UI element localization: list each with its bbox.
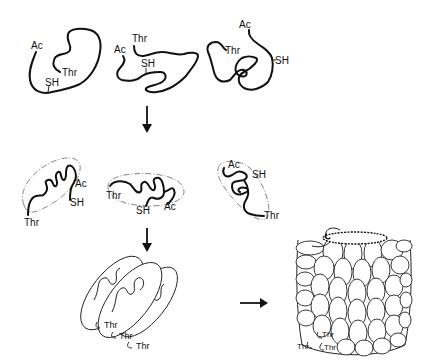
folded-monomer-1: Ac SH Thr bbox=[22, 158, 86, 228]
label-ac: Ac bbox=[239, 19, 251, 30]
label-thr: Thr bbox=[132, 33, 148, 44]
label-ac: Ac bbox=[164, 201, 176, 212]
arrow-down-1 bbox=[142, 106, 152, 133]
unfolded-chain-1: Ac Thr SH bbox=[30, 29, 101, 93]
folding-diagram: Ac Thr SH Ac Thr SH Ac Thr SH Ac SH Thr … bbox=[0, 0, 430, 361]
label-ac: Ac bbox=[114, 44, 126, 55]
label-thr: Thr bbox=[104, 320, 118, 330]
label-thr: Thr bbox=[119, 331, 133, 341]
label-thr: Thr bbox=[62, 67, 78, 78]
label-thr: Thr bbox=[264, 210, 280, 221]
arrow-right bbox=[240, 298, 268, 308]
label-thr: Thr bbox=[324, 343, 336, 352]
label-sh: SH bbox=[45, 77, 59, 88]
label-thr: Thr bbox=[225, 45, 241, 56]
unfolded-chain-2: Ac Thr SH bbox=[114, 33, 198, 92]
stacked-oligomer: Thr Thr Thr bbox=[69, 246, 188, 351]
label-sh: SH bbox=[70, 197, 84, 208]
top-ring bbox=[323, 232, 387, 244]
folded-monomer-3: Ac SH Thr bbox=[218, 159, 280, 221]
label-thr: Thr bbox=[24, 217, 40, 228]
label-ac: Ac bbox=[31, 40, 43, 51]
label-sh: SH bbox=[275, 55, 289, 66]
label-sh: SH bbox=[252, 169, 266, 180]
label-thr: Thr bbox=[322, 330, 334, 339]
label-sh: SH bbox=[141, 58, 155, 69]
petal-rows bbox=[296, 238, 412, 356]
folded-monomer-2: Thr SH Ac bbox=[106, 174, 184, 216]
arrow-down-2 bbox=[142, 228, 152, 252]
label-thr: Thr bbox=[136, 341, 150, 351]
label-sh: SH bbox=[136, 205, 150, 216]
label-ac: Ac bbox=[228, 159, 240, 170]
label-ac: Ac bbox=[75, 178, 87, 189]
assembled-cylinder: Thr Thr Thr bbox=[296, 228, 412, 356]
label-thr: Thr bbox=[297, 342, 309, 351]
unfolded-chain-3: Ac Thr SH bbox=[207, 19, 288, 90]
label-thr: Thr bbox=[106, 190, 122, 201]
